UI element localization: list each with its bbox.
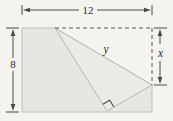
right-segment-label: x (157, 47, 164, 59)
width-label: 12 (83, 4, 94, 16)
geometry-figure: 12 8 y x (0, 0, 173, 121)
crease-length-label: y (102, 43, 109, 56)
folded-paper-diagram: 12 8 y x (0, 0, 173, 121)
height-label: 8 (10, 58, 16, 70)
